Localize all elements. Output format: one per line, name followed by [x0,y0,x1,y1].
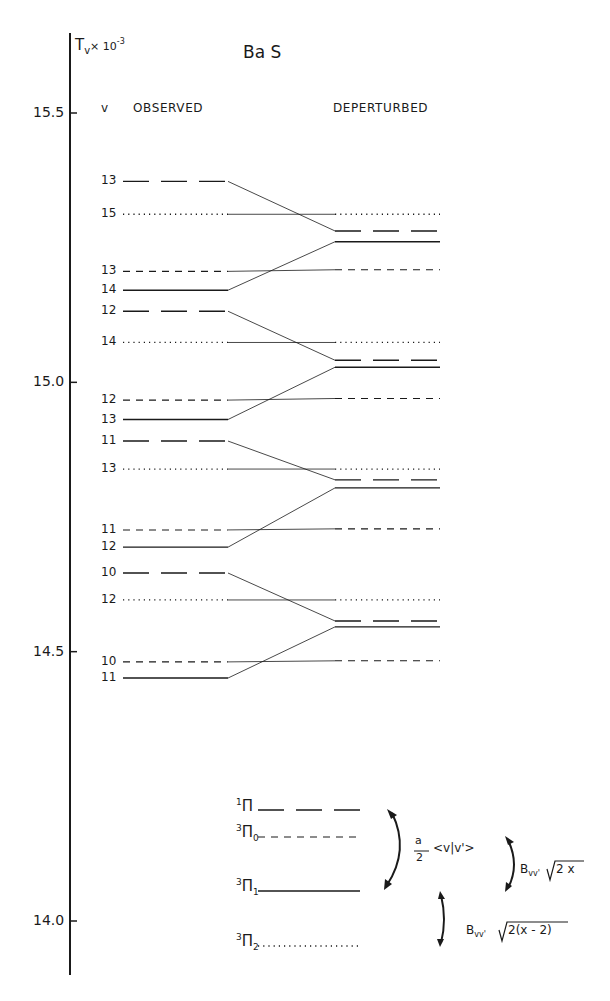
v-label: 10 [101,565,116,579]
v-label: 11 [101,433,116,447]
y-tick-label: 15.0 [33,373,64,389]
y-tick-label: 15.5 [33,104,64,120]
y-axis-label: Tv× 10-3 [75,36,125,56]
energy-level-diagram [0,0,610,1001]
energy-levels [123,181,440,678]
coupling-upper-label: Bvv' [520,862,540,878]
level-connector [228,627,335,678]
spin-orbit-arrow [387,813,400,885]
v-label: 10 [101,654,116,668]
v-label: 13 [101,173,116,187]
level-connector [228,441,335,480]
level-connector [228,398,335,400]
level-connector [228,573,335,621]
level-connector [228,367,335,419]
v-label: 12 [101,592,116,606]
v-label: 13 [101,412,116,426]
legend-label-3pi0: 3Π0 [236,823,259,843]
column-header-v: v [101,101,108,115]
level-connector [228,242,335,290]
coupling-upper-arrow [508,840,514,888]
y-tick-label: 14.0 [33,912,64,928]
legend-label-3pi1: 3Π1 [236,877,259,897]
level-connector [228,488,335,547]
v-label: 13 [101,263,116,277]
level-connector [228,181,335,231]
v-label: 15 [101,206,116,220]
column-header-deperturbed: DEPERTURBED [333,101,428,115]
v-label: 14 [101,282,116,296]
v-label: 11 [101,670,116,684]
v-label: 11 [101,522,116,536]
y-tick-label: 14.5 [33,643,64,659]
coupling-lower-label: Bvv' [466,923,486,939]
spin-orbit-numerator: a [415,834,422,847]
coupling-arrows [384,809,514,947]
v-label: 12 [101,303,116,317]
level-connector [228,661,335,662]
y-axis-ticks [70,113,77,921]
v-label: 14 [101,334,116,348]
coupling-upper-root: 2 x [556,862,575,876]
level-connector [228,311,335,360]
diagram-title: Ba S [243,42,281,62]
spin-orbit-denominator: 2 [416,851,423,864]
v-label: 13 [101,461,116,475]
legend-label-3pi2: 3Π2 [236,932,259,952]
coupling-lower-arrow [441,895,444,943]
v-label: 12 [101,392,116,406]
legend-lines [258,810,360,946]
level-connector [228,529,335,530]
v-label: 12 [101,539,116,553]
column-header-observed: OBSERVED [133,101,203,115]
spin-orbit-bracket: <v|v'> [433,841,475,855]
coupling-lower-root: 2(x - 2) [508,923,552,937]
level-connector [228,270,335,272]
legend-label-1pi: 1Π [236,797,253,815]
